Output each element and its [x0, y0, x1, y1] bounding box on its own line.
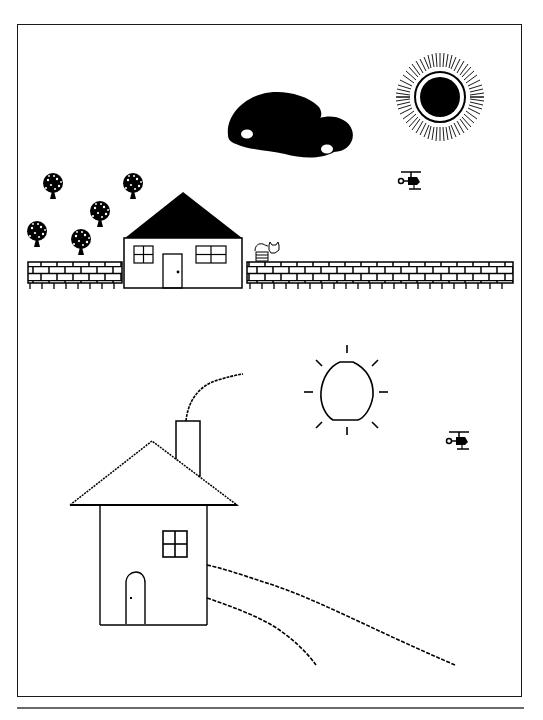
path-upper	[207, 565, 455, 665]
helicopter-icon	[399, 172, 422, 189]
brick-wall	[28, 262, 513, 289]
house-bottom	[70, 374, 455, 665]
house-top	[124, 192, 242, 288]
helicopter-icon	[447, 432, 470, 449]
door	[126, 572, 145, 624]
drawing-canvas	[0, 0, 543, 720]
window-icon	[163, 531, 187, 557]
upper-scene	[27, 53, 513, 289]
roof	[125, 192, 242, 238]
lower-scene	[70, 345, 469, 665]
roof	[70, 441, 237, 505]
outline-sun-icon	[304, 345, 388, 435]
cat-icon	[255, 242, 279, 261]
sun-icon	[396, 53, 484, 141]
cloud-icon	[228, 92, 353, 157]
smoke	[186, 374, 243, 421]
path-lower	[207, 598, 316, 665]
